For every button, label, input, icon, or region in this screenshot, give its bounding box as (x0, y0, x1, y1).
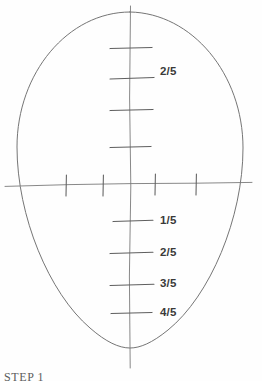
tick-upper-2 (110, 77, 154, 79)
tick-lower-1 (113, 220, 153, 221)
vertical-lower-ticks (110, 220, 154, 313)
fraction-label-lower-1-5: 1/5 (160, 215, 177, 227)
step-caption: STEP 1 (4, 371, 44, 381)
tick-upper-1 (110, 47, 152, 48)
fraction-label-lower-4-5: 4/5 (160, 307, 177, 319)
vertical-centerline (129, 6, 130, 368)
tick-upper-4 (110, 146, 151, 147)
fraction-label-lower-3-5: 3/5 (160, 278, 177, 290)
face-proportion-sketch (0, 0, 262, 381)
tick-lower-3 (110, 284, 154, 285)
tick-lower-2 (110, 252, 153, 253)
tick-lower-4 (111, 312, 152, 313)
vertical-upper-ticks (110, 47, 154, 147)
fraction-label-lower-2-5: 2/5 (160, 247, 177, 259)
tick-upper-3 (110, 109, 153, 110)
fraction-label-upper-2-5: 2/5 (160, 66, 177, 78)
horizontal-eyeline (5, 182, 252, 186)
